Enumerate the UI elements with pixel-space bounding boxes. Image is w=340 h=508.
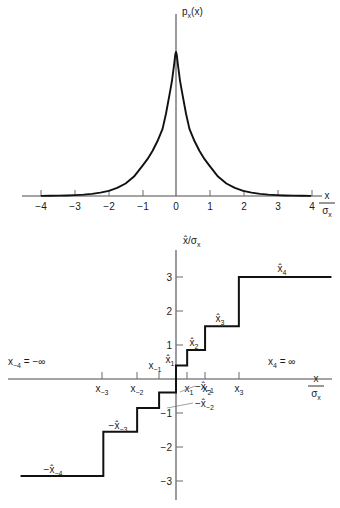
pdf-title-tail: (x) <box>191 6 203 17</box>
decision-label-x-3: x3 <box>235 383 244 396</box>
pdf-xtick-label-m2: −2 <box>103 201 115 212</box>
quant-y-axis-label: x̂/σx <box>183 235 201 248</box>
quant-ytick-label-m2: −2 <box>161 442 173 453</box>
level-label-xhat-minus-1: −x̂−1 <box>195 381 214 394</box>
quant-xlabel-numerator: x <box>314 373 319 384</box>
svg-text:px(x): px(x) <box>182 6 203 19</box>
level-label-xhat-1: x̂1 <box>166 354 175 367</box>
pdf-xtick-label-3: 3 <box>275 201 281 212</box>
quant-ytick-label-1: 1 <box>166 340 172 351</box>
decision-label-x-minus-2: x−2 <box>131 383 144 396</box>
pdf-xtick-label-4: 4 <box>309 201 315 212</box>
level-label-xhat-2: x̂2 <box>190 337 199 350</box>
quant-x-axis-label: x σx <box>308 373 324 401</box>
level-label-xhat-minus-4: −x̂−4 <box>44 464 63 477</box>
quant-ytick-label-m1: −1 <box>161 408 173 419</box>
quantizer-panel: 3 2 1 −1 −2 −3 x̂/σx x σx <box>8 235 332 500</box>
leader-line-xhat-m2 <box>167 403 193 408</box>
pdf-xlabel-den-sub: x <box>328 211 332 218</box>
pdf-xlabel-numerator: x <box>325 190 330 201</box>
pdf-title: px(x) <box>182 6 203 19</box>
level-label-xhat-minus-3: −x̂−3 <box>109 420 128 433</box>
pdf-xtick-label-0: 0 <box>173 201 179 212</box>
quant-ylabel-den-sub: x <box>197 241 201 248</box>
pdf-xtick-label-m3: −3 <box>69 201 81 212</box>
figure-root: −4 −3 −2 −1 0 1 2 3 4 px(x) x σx <box>0 0 340 508</box>
pdf-panel: −4 −3 −2 −1 0 1 2 3 4 px(x) x σx <box>22 6 335 218</box>
quant-ytick-label-2: 2 <box>166 306 172 317</box>
quant-ylabel: x̂/σx <box>183 235 201 248</box>
pdf-xtick-label-m1: −1 <box>137 201 149 212</box>
quant-y-ticks-positive <box>176 277 183 345</box>
figure-svg: −4 −3 −2 −1 0 1 2 3 4 px(x) x σx <box>0 0 340 508</box>
pdf-xtick-label-2: 2 <box>241 201 247 212</box>
quant-y-ticks-negative <box>176 413 183 481</box>
level-label-xhat-3: x̂3 <box>216 313 225 326</box>
quant-ytick-label-m3: −3 <box>161 476 173 487</box>
level-label-xhat-4: x̂4 <box>278 263 287 276</box>
decision-label-x-minus-3: x−3 <box>96 383 109 396</box>
quant-xlabel-denominator: σx <box>311 388 321 401</box>
decision-label-x-minus-1: x−1 <box>149 360 162 373</box>
decision-label-x-1: x1 <box>185 383 194 396</box>
pdf-xtick-label-1: 1 <box>207 201 213 212</box>
level-label-xhat-minus-2: −x̂−2 <box>195 398 214 411</box>
pdf-xtick-label-m4: −4 <box>35 201 47 212</box>
left-infinity-label: x−4 = −∞ <box>8 356 45 369</box>
quant-xlabel-den-sub: x <box>317 394 321 401</box>
pdf-xlabel-denominator: σx <box>322 205 332 218</box>
pdf-x-axis-label: x σx <box>319 190 335 218</box>
quant-ytick-label-3: 3 <box>166 272 172 283</box>
right-infinity-label: x4 = ∞ <box>268 356 295 369</box>
quant-decision-ticks <box>102 372 239 379</box>
